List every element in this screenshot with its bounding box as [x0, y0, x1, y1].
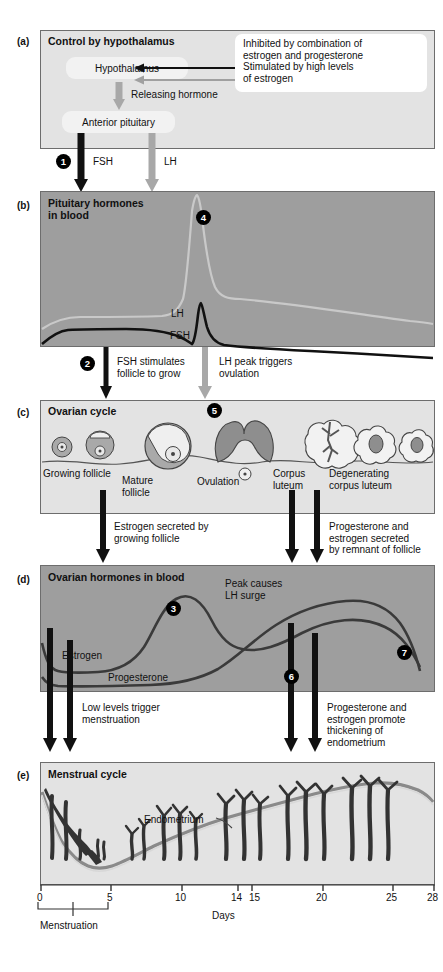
marker-7: 7: [397, 645, 412, 660]
axis-tick-28: 28: [427, 892, 438, 904]
axis-tick-25: 25: [386, 892, 397, 904]
marker-6: 6: [284, 669, 299, 684]
axis-title-days: Days: [212, 910, 235, 922]
marker-2: 2: [80, 356, 95, 371]
menstruation-bracket-label: Menstruation: [40, 920, 98, 932]
axis-tick-15: 15: [249, 892, 260, 904]
marker-3: 3: [166, 601, 181, 616]
menstrual-cycle-x-axis: [0, 0, 443, 972]
marker-1: 1: [56, 154, 71, 169]
marker-4: 4: [196, 210, 211, 225]
axis-tick-5: 5: [107, 892, 113, 904]
marker-5: 5: [207, 403, 222, 418]
axis-tick-14: 14: [231, 892, 242, 904]
axis-tick-10: 10: [175, 892, 186, 904]
axis-tick-20: 20: [316, 892, 327, 904]
axis-tick-0: 0: [37, 892, 43, 904]
